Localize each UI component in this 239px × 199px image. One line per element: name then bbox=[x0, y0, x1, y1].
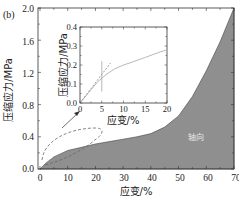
inset-plot: 0 5 10 15 20 0.0 0.1 0.2 0.3 0.4 应变/% 压缩… bbox=[57, 22, 171, 126]
main-y-tick-labels: 0.0 0.4 0.8 1.2 1.6 2.0 bbox=[22, 4, 34, 174]
inset-x-tick-0: 0 bbox=[78, 104, 82, 114]
x-tick-20: 20 bbox=[91, 173, 101, 183]
x-tick-70: 70 bbox=[231, 173, 239, 183]
inset-y-tick-0-4: 0.4 bbox=[66, 22, 77, 32]
y-tick-2-0: 2.0 bbox=[22, 4, 34, 14]
y-tick-0-4: 0.4 bbox=[22, 132, 34, 142]
y-tick-1-6: 1.6 bbox=[22, 37, 34, 47]
x-tick-30: 30 bbox=[119, 173, 129, 183]
inset-y-axis-label: 压缩应力/MPa bbox=[57, 33, 69, 97]
panel-label: (b) bbox=[3, 9, 15, 21]
x-tick-10: 10 bbox=[63, 173, 73, 183]
axial-region-label: 轴向 bbox=[188, 132, 204, 142]
main-x-axis-label: 应变/% bbox=[120, 185, 153, 197]
inset-x-tick-15: 15 bbox=[141, 104, 150, 114]
inset-x-tick-labels: 0 5 10 15 20 bbox=[78, 104, 171, 114]
main-x-tick-labels: 0 10 20 30 40 50 60 70 bbox=[38, 173, 239, 183]
inset-x-axis-label: 应变/% bbox=[107, 114, 140, 126]
x-tick-60: 60 bbox=[203, 173, 213, 183]
inset-x-tick-20: 20 bbox=[163, 104, 172, 114]
y-tick-0-8: 0.8 bbox=[22, 101, 34, 111]
y-tick-1-2: 1.2 bbox=[22, 69, 34, 79]
x-tick-40: 40 bbox=[147, 173, 157, 183]
main-y-axis-label: 压缩应力/MPa bbox=[2, 58, 14, 122]
y-tick-0-0: 0.0 bbox=[22, 164, 34, 174]
inset-y-tick-0-0: 0.0 bbox=[66, 98, 77, 108]
inset-x-tick-5: 5 bbox=[100, 104, 104, 114]
x-tick-0: 0 bbox=[38, 173, 43, 183]
chart-figure: (b) 0 10 20 30 40 50 60 70 0.0 bbox=[0, 0, 239, 199]
inset-x-tick-10: 10 bbox=[119, 104, 128, 114]
x-tick-50: 50 bbox=[175, 173, 185, 183]
